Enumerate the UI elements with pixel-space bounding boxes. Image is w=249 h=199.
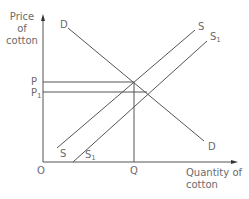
supply-curve-s1 (73, 41, 207, 162)
demand-curve (68, 28, 204, 141)
supply-s-top-label: S (198, 21, 204, 32)
demand-bottom-label: D (208, 141, 216, 152)
price-p-label: P (31, 76, 37, 87)
supply-s1-bottom-label: S1 (85, 149, 96, 164)
origin-label: O (37, 165, 45, 176)
demand-top-label: D (60, 19, 68, 30)
x-axis-label: Quantity of cotton (186, 167, 248, 191)
supply-s-bottom-label: S (60, 148, 66, 159)
y-axis-arrow-icon (41, 14, 45, 21)
supply-curve-s (57, 30, 195, 148)
price-p1-label: P1 (31, 87, 42, 102)
quantity-q-label: Q (130, 165, 138, 176)
y-axis-label: Price of cotton (6, 11, 38, 47)
x-axis-arrow-icon (231, 160, 238, 164)
supply-s1-top-label: S1 (210, 31, 221, 46)
